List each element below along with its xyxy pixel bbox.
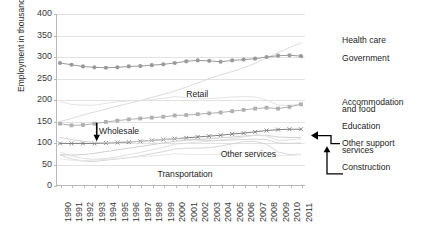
series-marker	[196, 112, 200, 116]
series-marker	[58, 122, 62, 126]
series-marker	[288, 105, 292, 109]
series-marker	[196, 58, 200, 62]
series-marker	[299, 102, 303, 106]
x-tick-label: 1991	[75, 202, 84, 222]
series-label-right: services	[342, 145, 374, 156]
series-label-inline: Other services	[221, 149, 276, 159]
series-label-right: and food	[342, 104, 375, 115]
series-marker	[58, 61, 62, 65]
series-line	[60, 97, 301, 106]
x-tick-label: 1993	[98, 202, 107, 222]
series-label-right: Health care	[342, 35, 386, 46]
series-line	[60, 43, 301, 122]
x-tick-label: 1994	[109, 202, 118, 222]
chart-root: Employment in thousands 4003503002502001…	[0, 0, 430, 235]
series-marker	[92, 65, 96, 69]
series-marker	[138, 64, 142, 68]
series-marker	[127, 117, 131, 121]
series-marker	[173, 61, 177, 65]
other-support-arrow-head	[311, 131, 318, 139]
series-marker	[207, 59, 211, 63]
series-label-right: Construction	[342, 162, 390, 173]
series-label-right: Government	[342, 53, 389, 64]
x-tick-label: 1997	[144, 202, 153, 222]
x-tick-label: 2005	[236, 202, 245, 222]
series-marker	[242, 108, 246, 112]
series-marker	[115, 65, 119, 69]
series-marker	[265, 106, 269, 110]
series-accommodation-and-food	[58, 102, 303, 127]
x-tick-label: 1992	[86, 202, 95, 222]
y-tick-label: 0	[26, 181, 52, 190]
series-marker	[230, 58, 234, 62]
x-tick-label: 2006	[247, 202, 256, 222]
series-marker	[161, 115, 165, 119]
series-marker	[219, 111, 223, 115]
series-label-inline: Retail	[186, 89, 208, 99]
series-health-care	[60, 43, 301, 122]
series-government	[58, 53, 303, 70]
series-label-right: Education	[342, 121, 380, 132]
series-marker	[104, 120, 108, 124]
series-label-inline: Wholesale	[99, 126, 139, 136]
series-marker	[276, 54, 280, 58]
construction-leader	[327, 148, 343, 174]
x-tick-label: 1996	[132, 202, 141, 222]
x-axis-tick-labels: 1990199119921993199419951996199719981999…	[56, 188, 316, 234]
series-marker	[127, 64, 131, 68]
series-marker	[207, 111, 211, 115]
construction-arrow-head	[324, 146, 331, 152]
y-tick-label: 150	[26, 117, 52, 126]
series-layer	[56, 14, 305, 186]
series-marker	[81, 64, 85, 68]
series-marker	[138, 117, 142, 121]
y-tick-mark	[54, 186, 57, 187]
series-marker	[104, 66, 108, 70]
x-tick-label: 2002	[201, 202, 210, 222]
series-label-inline: Transportation	[158, 169, 213, 179]
x-tick-label: 1999	[167, 202, 176, 222]
series-marker	[69, 63, 73, 67]
x-tick-label: 1995	[121, 202, 130, 222]
series-marker	[184, 113, 188, 117]
series-marker	[299, 54, 303, 58]
x-tick-label: 2007	[259, 202, 268, 222]
series-marker	[173, 114, 177, 118]
x-tick-label: 2011	[305, 203, 314, 222]
series-marker	[219, 60, 223, 64]
y-axis-tick-labels: 400350300250200150100500	[24, 0, 52, 235]
series-marker	[264, 55, 268, 59]
series-retail	[60, 97, 301, 106]
series-marker	[150, 63, 154, 67]
series-marker	[287, 53, 291, 57]
y-tick-label: 350	[26, 31, 52, 40]
y-tick-label: 200	[26, 95, 52, 104]
x-tick-label: 1990	[64, 202, 73, 222]
series-marker	[70, 123, 74, 127]
x-tick-label: 1998	[155, 202, 164, 222]
series-marker	[81, 123, 85, 127]
series-marker	[161, 62, 165, 66]
series-marker	[253, 107, 257, 111]
x-tick-label: 2008	[270, 202, 279, 222]
x-tick-label: 2003	[213, 202, 222, 222]
y-tick-label: 300	[26, 52, 52, 61]
series-marker	[93, 122, 97, 126]
y-tick-label: 50	[26, 160, 52, 169]
series-marker	[115, 119, 119, 123]
other-support-leader	[317, 136, 340, 144]
x-tick-label: 2001	[190, 202, 199, 222]
series-marker	[150, 116, 154, 120]
series-marker	[184, 59, 188, 63]
series-marker	[253, 57, 257, 61]
y-tick-label: 400	[26, 9, 52, 18]
y-tick-label: 100	[26, 138, 52, 147]
x-tick-label: 2009	[282, 202, 291, 222]
x-tick-label: 2000	[178, 202, 187, 222]
series-marker	[230, 109, 234, 113]
x-tick-label: 2004	[224, 202, 233, 222]
series-marker	[276, 107, 280, 111]
x-tick-label: 2010	[293, 202, 302, 222]
y-tick-label: 250	[26, 74, 52, 83]
series-marker	[242, 57, 246, 61]
